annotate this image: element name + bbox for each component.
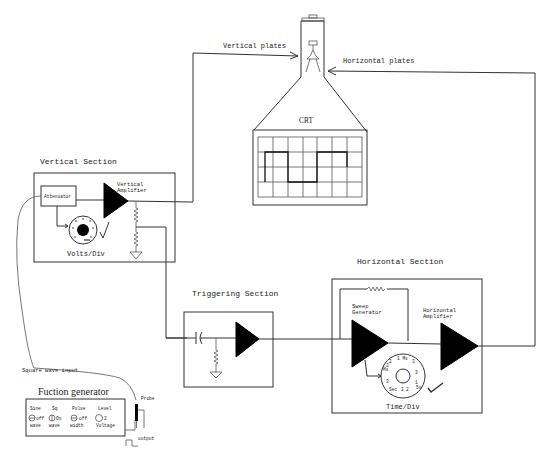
oscilloscope-diagram: CRT Vertical plates Horizontal plates Ve… [0,0,555,461]
sweep-generator-icon [352,320,388,367]
horizontal-section-title: Horizontal Section [357,257,444,266]
svg-text:wave: wave [49,423,60,428]
fg-control-square[interactable]: Sq On wave [49,406,62,428]
checkmark-icon [428,383,443,392]
fg-control-pulse[interactable]: Pulse off width [70,406,87,428]
probe-label: Probe [141,396,155,401]
resistor-divider-icon [130,202,142,259]
time-div-label: Time/Div [386,403,420,411]
svg-text:width: width [70,423,84,428]
horizontal-amp-label-2: Amplifier [423,313,453,320]
feedback-resistor-icon [367,287,385,291]
triggering-section-title: Triggering Section [192,289,279,298]
svg-text:5s: 5s [416,385,422,390]
volts-div-knob[interactable] [69,216,97,244]
crt-label: CRT [299,116,314,125]
attenuator-label: Attenuator [44,194,71,199]
svg-text:On: On [56,416,62,421]
fg-control-sine[interactable]: Sine off wave [29,406,44,428]
trigger-wire [136,227,187,338]
vertical-plates-wire [190,53,298,202]
resistor-icon [210,338,222,378]
vertical-section-title: Vertical Section [40,157,117,166]
function-generator-title: Fuction generator [38,386,109,397]
svg-text:Sine: Sine [30,406,41,411]
vertical-plates-label: Vertical plates [223,42,286,50]
svg-text:wave: wave [30,423,41,428]
checkmark-icon [100,222,109,238]
svg-text:1 Ms: 1 Ms [397,356,408,361]
time-div-knob[interactable]: 1 Ms 2 3 1 5s 2 3 Sec 2 3 Ms 2 [381,354,425,398]
fg-control-level[interactable]: Level 2 Voltage [96,406,116,428]
horizontal-amplifier-icon [441,323,478,370]
svg-text:2: 2 [401,387,404,392]
svg-text:off: off [79,416,87,421]
svg-text:Pulse: Pulse [72,406,86,411]
svg-text:2: 2 [386,363,389,368]
triggering-section-box [184,312,273,387]
svg-text:2: 2 [104,416,107,421]
probe-icon [135,404,144,428]
trigger-amplifier-icon [236,322,259,357]
square-wave-input-label: Square wave input [22,367,78,374]
svg-text:Sec: Sec [389,387,397,392]
svg-text:off: off [36,416,44,421]
svg-text:3: 3 [415,370,418,375]
svg-text:3: 3 [386,379,389,384]
output-label: output [138,436,155,441]
svg-text:Sq: Sq [52,406,58,411]
svg-text:Level: Level [98,406,112,411]
svg-text:Voltage: Voltage [96,423,115,428]
svg-text:2: 2 [389,359,392,364]
sweep-generator-label-2: Generator [352,309,382,316]
vertical-amp-label-2: Amplifier [117,187,147,194]
square-wave-icon [126,440,138,446]
volts-div-label: Volts/Div [67,250,105,258]
svg-text:3: 3 [412,359,415,364]
svg-text:2: 2 [406,387,409,392]
horizontal-plates-label: Horizontal plates [343,57,414,65]
